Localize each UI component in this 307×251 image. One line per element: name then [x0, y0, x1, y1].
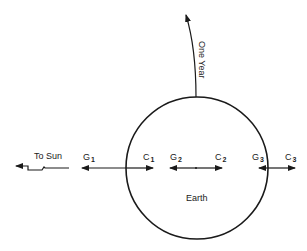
- sun-direction-label: To Sun: [34, 151, 62, 161]
- point-2: G2 C2: [170, 152, 227, 169]
- sun-direction: To Sun: [16, 151, 69, 170]
- c2-label: C2: [215, 152, 227, 163]
- c1-label: C1: [143, 152, 155, 163]
- orbit-arrow: One Year: [186, 15, 207, 97]
- point-1: G1 C1: [82, 152, 155, 168]
- c3-label: C3: [285, 152, 297, 163]
- orbit-arrow-line: [186, 15, 196, 97]
- orbit-arrow-label: One Year: [197, 41, 207, 79]
- g1-label: G1: [83, 152, 95, 163]
- sun-direction-arrow: [16, 166, 69, 170]
- earth-label: Earth: [186, 193, 208, 203]
- tidal-diagram: Earth One Year To Sun G1 C1 G2 C2: [0, 0, 307, 251]
- g3-label: G3: [252, 152, 264, 163]
- g2-label: G2: [170, 152, 182, 163]
- point-3: G3 C3: [252, 152, 297, 168]
